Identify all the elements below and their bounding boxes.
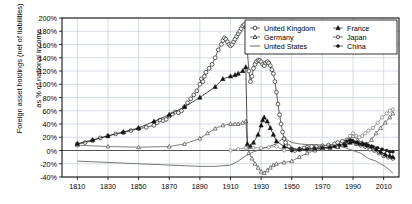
data-point-marker: [281, 130, 285, 134]
data-point-marker: [290, 149, 293, 152]
data-point-marker: [376, 121, 379, 124]
data-point-marker: [250, 74, 254, 78]
chart-figure: Foreign asset holdings (net of liabiliti…: [0, 0, 412, 204]
x-tick-label: 1890: [192, 182, 208, 191]
y-tick-label: 20%: [43, 133, 58, 142]
data-point-marker: [276, 102, 280, 106]
x-tick-label: 1870: [161, 182, 177, 191]
data-point-marker: [306, 148, 309, 151]
data-point-marker: [348, 138, 351, 141]
data-point-marker: [213, 56, 217, 60]
data-point-marker: [338, 144, 341, 147]
data-point-marker: [144, 125, 148, 129]
data-point-marker: [201, 80, 205, 84]
data-point-marker: [388, 150, 391, 153]
data-point-marker: [358, 142, 361, 145]
y-tick-label: 60%: [43, 107, 58, 116]
data-point-marker: [275, 145, 278, 148]
data-point-marker: [189, 97, 193, 101]
data-point-marker: [192, 93, 196, 97]
data-point-marker: [381, 148, 384, 151]
data-point-marker: [313, 147, 316, 150]
data-point-marker: [385, 149, 388, 152]
data-point-marker: [336, 35, 339, 38]
x-tick-label: 1910: [223, 182, 239, 191]
data-point-marker: [210, 62, 214, 66]
data-point-marker: [203, 74, 207, 78]
data-point-marker: [271, 72, 275, 76]
data-point-marker: [388, 109, 391, 112]
data-point-marker: [283, 149, 286, 152]
data-point-marker: [337, 45, 340, 48]
data-point-marker: [358, 136, 361, 139]
data-point-marker: [229, 149, 232, 152]
x-tick-label: 1990: [345, 182, 361, 191]
data-point-marker: [207, 66, 211, 70]
legend-label: France: [347, 24, 369, 33]
y-tick-label: 40%: [43, 120, 58, 129]
data-point-marker: [249, 80, 253, 84]
x-tick-label: 1830: [100, 182, 116, 191]
legend-label: United States: [264, 42, 308, 51]
data-point-marker: [268, 64, 272, 68]
data-point-marker: [278, 113, 282, 117]
data-point-marker: [367, 144, 370, 147]
data-point-marker: [361, 142, 364, 145]
y-tick-label: 0%: [47, 147, 58, 156]
data-point-marker: [244, 146, 247, 149]
y-tick-label: 80%: [43, 94, 58, 103]
data-point-marker: [381, 116, 384, 119]
data-point-marker: [329, 146, 332, 149]
data-point-marker: [219, 43, 223, 47]
data-point-marker: [351, 132, 354, 135]
data-point-marker: [279, 122, 283, 126]
data-point-marker: [195, 89, 199, 93]
data-point-marker: [333, 145, 336, 148]
legend-label: China: [347, 42, 366, 51]
x-tick-label: 1950: [284, 182, 300, 191]
data-point-marker: [204, 70, 208, 74]
data-point-marker: [361, 134, 364, 137]
x-tick-label: 1850: [131, 182, 147, 191]
data-point-marker: [385, 112, 388, 115]
y-axis-title-line2: as % of national income: [33, 29, 42, 107]
x-tick-label: 1930: [253, 182, 269, 191]
data-point-marker: [352, 140, 355, 143]
data-point-marker: [342, 142, 345, 145]
y-axis-title-line1: Foreign asset holdings (net of liabiliti…: [15, 4, 24, 134]
data-point-marker: [253, 26, 257, 30]
data-point-marker: [270, 68, 274, 72]
legend-label: Germany: [264, 33, 294, 42]
chart-canvas: -40%-20%0%20%40%60%80%100%120%140%160%18…: [0, 0, 412, 204]
data-point-marker: [247, 69, 251, 73]
data-point-marker: [164, 117, 168, 121]
data-point-marker: [284, 141, 288, 145]
y-tick-label: -20%: [40, 160, 57, 169]
data-point-marker: [321, 146, 324, 149]
x-tick-label: 2010: [376, 182, 392, 191]
data-point-marker: [237, 148, 240, 151]
data-point-marker: [275, 90, 279, 94]
y-tick-label: -40%: [40, 173, 57, 182]
data-point-marker: [371, 126, 374, 129]
legend-label: Japan: [347, 33, 367, 42]
data-point-marker: [273, 80, 277, 84]
x-tick-label: 1970: [314, 182, 330, 191]
data-point-marker: [376, 146, 379, 149]
data-point-marker: [345, 140, 348, 143]
x-tick-label: 1810: [69, 182, 85, 191]
data-point-marker: [391, 150, 394, 153]
legend-label: United Kingdom: [264, 24, 315, 33]
data-point-marker: [364, 132, 367, 135]
data-point-marker: [371, 145, 374, 148]
data-point-marker: [348, 134, 351, 137]
data-point-marker: [267, 146, 270, 149]
data-point-marker: [252, 66, 256, 70]
data-point-marker: [367, 129, 370, 132]
data-point-marker: [216, 48, 220, 52]
data-point-marker: [260, 146, 263, 149]
data-point-marker: [298, 148, 301, 151]
data-point-marker: [364, 142, 367, 145]
y-axis-title: Foreign asset holdings (net of liabiliti…: [6, 0, 43, 148]
data-point-marker: [391, 108, 394, 111]
